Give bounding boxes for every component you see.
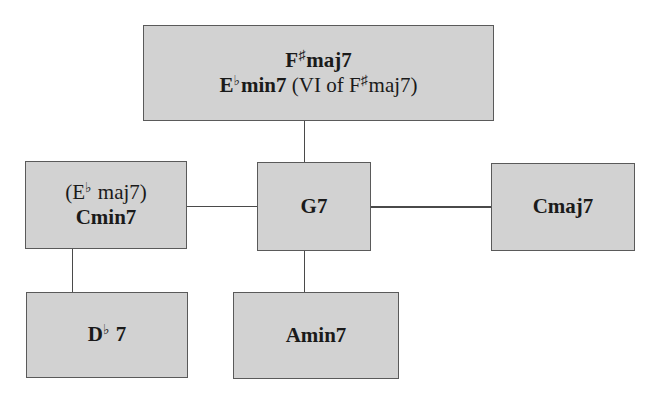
sharp-icon: ♯ xyxy=(298,48,305,63)
node-amin7: Amin7 xyxy=(233,292,399,379)
node-cmaj7-label: Cmaj7 xyxy=(533,194,594,219)
node-amin7-label: Amin7 xyxy=(286,323,347,348)
chord-alias-rest: maj7) xyxy=(93,180,147,204)
chord-root: D xyxy=(88,322,103,346)
chord-root: F xyxy=(285,48,298,72)
sharp-icon: ♯ xyxy=(361,73,368,88)
chord-root: E xyxy=(219,73,233,97)
node-top-line2: E♭min7 (VI of F♯maj7) xyxy=(219,73,417,98)
edge-g7-to-amin7 xyxy=(304,250,306,292)
node-g7: G7 xyxy=(257,162,371,251)
flat-icon: ♭ xyxy=(233,73,240,88)
node-cmin7-line1: (E♭ maj7) xyxy=(65,180,147,205)
chord-annotation-suffix: maj7) xyxy=(369,73,418,97)
chord-quality: 7 xyxy=(111,322,127,346)
chord-annotation-prefix: (VI of F xyxy=(292,73,361,97)
node-dflat7: D♭ 7 xyxy=(26,292,188,378)
node-fsharp-maj7: F♯maj7 E♭min7 (VI of F♯maj7) xyxy=(143,25,494,121)
node-dflat7-label: D♭ 7 xyxy=(88,322,127,347)
edge-cmin7-to-g7 xyxy=(187,206,257,208)
chord-quality: maj7 xyxy=(306,48,352,72)
flat-icon: ♭ xyxy=(85,180,92,195)
edge-g7-to-cmaj7 xyxy=(370,206,491,208)
node-g7-label: G7 xyxy=(301,194,328,219)
node-top-line1: F♯maj7 xyxy=(285,48,351,73)
node-cmaj7: Cmaj7 xyxy=(491,163,635,251)
chord-quality: min7 xyxy=(241,73,287,97)
edge-top-to-g7 xyxy=(304,120,306,162)
node-cmin7: (E♭ maj7) Cmin7 xyxy=(25,161,187,249)
flat-icon: ♭ xyxy=(103,322,110,337)
chord-alias-open: (E xyxy=(65,180,85,204)
node-cmin7-label: Cmin7 xyxy=(76,205,137,230)
edge-cmin7-to-db7 xyxy=(72,248,74,292)
